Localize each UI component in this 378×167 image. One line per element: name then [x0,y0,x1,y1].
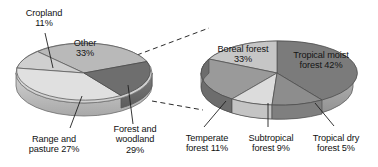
label-cropland: Cropland 11% [6,8,82,29]
label-tropical-moist-forest: Tropical moist forest 42% [281,50,361,71]
pie-chart-figure: Cropland 11% Other 33% Range and pasture… [0,0,378,167]
label-tropical-dry-forest: Tropical dry forest 5% [303,133,369,154]
label-forest-woodland: Forest and woodland 29% [100,124,170,155]
label-other: Other 33% [54,38,116,59]
label-boreal-forest: Boreal forest 33% [203,44,283,65]
label-subtropical-forest: Subtropical forest 9% [238,133,304,154]
label-temperate-forest: Temperate forest 11% [174,133,240,154]
label-range-pasture: Range and pasture 27% [12,134,96,155]
